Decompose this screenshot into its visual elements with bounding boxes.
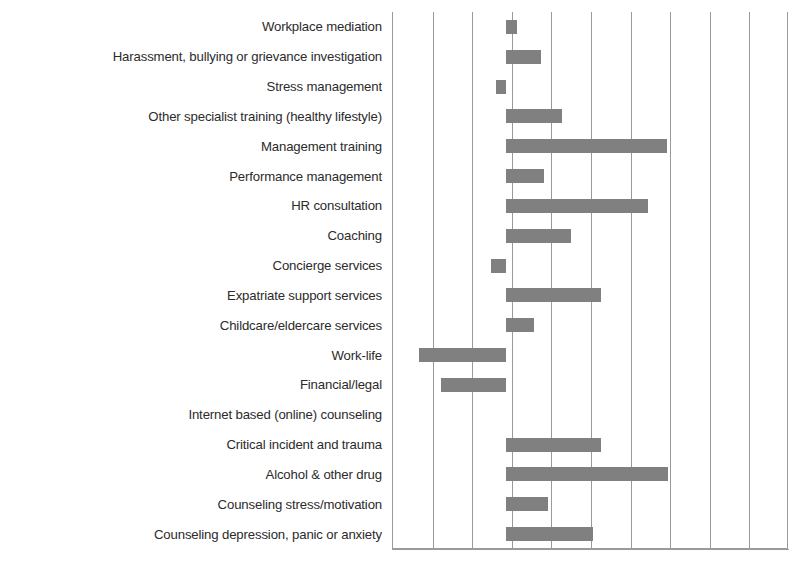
category-label: Management training [0, 140, 382, 154]
bars-layer [393, 12, 787, 548]
bar [506, 20, 517, 34]
bar [506, 199, 649, 213]
category-label: Expatriate support services [0, 289, 382, 303]
bar [441, 378, 506, 392]
bar [506, 438, 601, 452]
bar [506, 169, 544, 183]
category-label: Critical incident and trauma [0, 438, 382, 452]
category-label: Work-life [0, 349, 382, 363]
category-label: Counseling depression, panic or anxiety [0, 528, 382, 542]
bar [491, 259, 506, 273]
category-label: Counseling stress/motivation [0, 498, 382, 512]
category-label: Financial/legal [0, 378, 382, 392]
bar [506, 288, 601, 302]
plot-area [392, 12, 788, 549]
bar [506, 527, 593, 541]
category-label: Childcare/eldercare services [0, 319, 382, 333]
category-label: Coaching [0, 229, 382, 243]
bar [506, 50, 541, 64]
category-label: Other specialist training (healthy lifes… [0, 110, 382, 124]
bar [419, 348, 506, 362]
bar [496, 80, 506, 94]
category-label: Workplace mediation [0, 20, 382, 34]
category-label: HR consultation [0, 199, 382, 213]
category-label: Concierge services [0, 259, 382, 273]
category-axis-labels: Workplace mediationHarassment, bullying … [0, 12, 382, 549]
bar [506, 467, 668, 481]
bar [506, 318, 534, 332]
category-label: Performance management [0, 170, 382, 184]
bar [506, 497, 548, 511]
category-label: Harassment, bullying or grievance invest… [0, 50, 382, 64]
bar-chart: Workplace mediationHarassment, bullying … [0, 0, 805, 568]
category-label: Internet based (online) counseling [0, 408, 382, 422]
x-axis-line [392, 549, 789, 550]
bar [506, 139, 667, 153]
category-label: Stress management [0, 80, 382, 94]
bar [506, 229, 571, 243]
category-label: Alcohol & other drug [0, 468, 382, 482]
bar [506, 109, 562, 123]
